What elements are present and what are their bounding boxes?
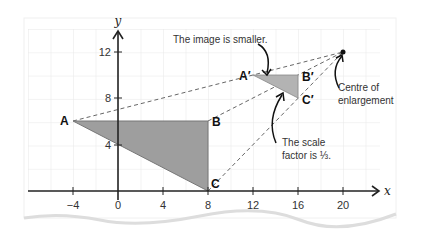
svg-text:20: 20 — [337, 199, 349, 211]
svg-text:8: 8 — [105, 92, 111, 104]
annotation-scale-1: The scale — [282, 137, 326, 148]
svg-text:16: 16 — [292, 199, 304, 211]
annotation-scale-2: factor is ⅓. — [282, 150, 331, 161]
annotation-centre-1: Centre of — [338, 82, 379, 93]
centre-point — [341, 50, 346, 55]
svg-text:0: 0 — [115, 199, 121, 211]
annotation-smaller: The image is smaller. — [173, 34, 267, 45]
label-b-prime: B′ — [302, 70, 314, 84]
svg-text:12: 12 — [99, 46, 111, 58]
svg-text:4: 4 — [160, 199, 166, 211]
y-axis-label: y — [114, 14, 122, 28]
svg-text:12: 12 — [247, 199, 259, 211]
enlargement-diagram: −4 0 4 8 12 16 20 4 8 12 x y A B C A′ B′… — [0, 0, 422, 239]
svg-text:4: 4 — [105, 139, 111, 151]
label-a: A — [60, 114, 69, 128]
x-axis-label: x — [384, 184, 391, 198]
label-c-prime: C′ — [302, 93, 314, 107]
label-b: B — [212, 115, 221, 129]
svg-text:8: 8 — [205, 199, 211, 211]
label-a-prime: A′ — [239, 69, 251, 83]
svg-text:−4: −4 — [67, 199, 80, 211]
annotation-centre-2: enlargement — [338, 95, 394, 106]
label-c: C — [211, 177, 220, 191]
